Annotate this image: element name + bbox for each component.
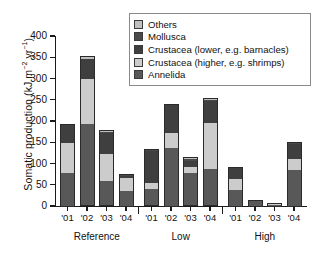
- bar-segment: [203, 101, 218, 123]
- bar-segment: [144, 151, 159, 184]
- bar-segment: [228, 190, 243, 207]
- bar-stack: [248, 200, 263, 206]
- legend-swatch: [134, 70, 143, 79]
- bar-stack: [203, 98, 218, 206]
- bar-stack: [144, 149, 159, 206]
- y-axis-tick: [50, 163, 55, 164]
- bar-segment: [287, 159, 302, 170]
- y-axis-tick-label: 350: [17, 51, 47, 62]
- y-axis-tick-label: 0: [17, 200, 47, 211]
- x-axis-tick: [254, 207, 255, 211]
- bar-segment: [99, 133, 114, 154]
- bar-stack: [119, 174, 134, 206]
- bar-segment: [183, 173, 198, 206]
- y-axis-tick-label: 300: [17, 73, 47, 84]
- legend-item: Annelida: [134, 68, 305, 81]
- x-axis-tick: [125, 207, 126, 211]
- bar-stack: [99, 130, 114, 206]
- bar-segment: [164, 148, 179, 207]
- legend-item: Mollusca: [134, 31, 305, 44]
- bar-segment: [99, 154, 114, 181]
- x-axis-tick: [67, 207, 68, 211]
- bar-segment: [248, 201, 263, 206]
- bar-stack: [267, 203, 282, 206]
- legend-label: Crustacea (lower, e.g. barnacles): [148, 44, 289, 55]
- bar-segment: [144, 189, 159, 206]
- bar-stack: [287, 142, 302, 206]
- x-axis-tick-label: '04: [281, 212, 307, 223]
- legend-label: Mollusca: [148, 31, 186, 42]
- y-axis-tick-label: 100: [17, 158, 47, 169]
- y-axis-tick: [50, 57, 55, 58]
- x-axis-group-tick: [138, 207, 139, 214]
- bar-segment: [80, 79, 95, 124]
- bar-segment: [287, 144, 302, 159]
- bar-segment: [99, 181, 114, 206]
- bar-stack: [60, 124, 75, 206]
- chart-legend: OthersMolluscaCrustacea (lower, e.g. bar…: [129, 13, 311, 86]
- x-axis-tick: [293, 207, 294, 211]
- bar-segment: [60, 173, 75, 206]
- legend-item: Crustacea (lower, e.g. barnacles): [134, 43, 305, 56]
- chart-figure: Somatic production (kJ m−2 yr−1) OthersM…: [0, 0, 331, 258]
- y-axis-tick: [50, 120, 55, 121]
- y-axis-tick-label: 200: [17, 115, 47, 126]
- legend-label: Crustacea (higher, e.g. shrimps): [148, 57, 285, 68]
- x-axis-tick: [209, 207, 210, 211]
- bar-segment: [203, 169, 218, 206]
- bar-segment: [287, 170, 302, 207]
- bar-segment: [164, 105, 179, 133]
- legend-label: Others: [148, 19, 177, 30]
- y-axis-tick: [50, 35, 55, 36]
- x-axis-group-label: Low: [141, 231, 221, 242]
- y-axis-tick: [50, 99, 55, 100]
- bar-segment: [164, 133, 179, 147]
- x-axis-tick-label: '04: [113, 212, 139, 223]
- x-axis-tick: [151, 207, 152, 211]
- x-axis-tick: [170, 207, 171, 211]
- bar-stack: [183, 157, 198, 206]
- x-axis-tick: [86, 207, 87, 211]
- legend-item: Crustacea (higher, e.g. shrimps): [134, 56, 305, 69]
- bar-segment: [60, 125, 75, 142]
- x-axis-group-label: High: [225, 231, 305, 242]
- legend-label: Annelida: [148, 69, 185, 80]
- x-axis-tick: [274, 207, 275, 211]
- bar-stack: [228, 167, 243, 206]
- bar-segment: [228, 179, 243, 190]
- y-axis-tick-label: 50: [17, 179, 47, 190]
- bar-segment: [119, 191, 134, 207]
- bar-segment: [80, 59, 95, 79]
- x-axis-tick: [190, 207, 191, 211]
- x-axis-tick: [106, 207, 107, 211]
- bar-segment: [228, 168, 243, 179]
- y-axis-tick: [50, 142, 55, 143]
- legend-swatch: [134, 58, 143, 67]
- bar-segment: [80, 124, 95, 206]
- x-axis-tick-label: '04: [197, 212, 223, 223]
- x-axis-group-label: Reference: [57, 231, 137, 242]
- y-axis-tick: [50, 205, 55, 206]
- legend-swatch: [134, 20, 143, 29]
- bar-stack: [164, 104, 179, 206]
- y-axis-tick-label: 400: [17, 30, 47, 41]
- x-axis-group-tick: [222, 207, 223, 214]
- legend-item: Others: [134, 18, 305, 31]
- y-axis-tick: [50, 184, 55, 185]
- x-axis-tick: [235, 207, 236, 211]
- bar-segment: [203, 123, 218, 170]
- y-axis-tick-label: 150: [17, 136, 47, 147]
- legend-swatch: [134, 45, 143, 54]
- bar-segment: [60, 143, 75, 174]
- bar-stack: [80, 56, 95, 206]
- y-axis-tick: [50, 78, 55, 79]
- bar-segment: [119, 178, 134, 191]
- y-axis-tick-label: 250: [17, 94, 47, 105]
- legend-swatch: [134, 32, 143, 41]
